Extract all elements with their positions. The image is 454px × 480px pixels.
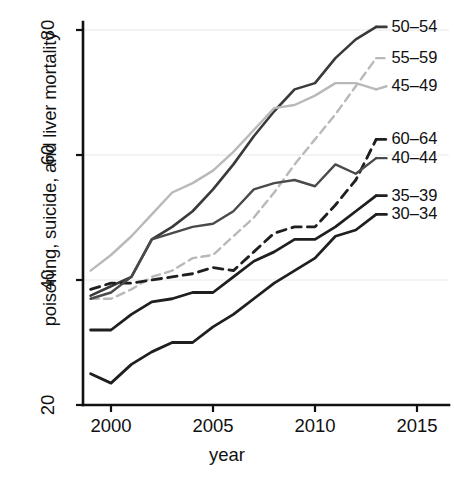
x-tick-label-2000: 2000	[76, 415, 146, 437]
series-line-50-54	[91, 27, 377, 296]
y-tick-label-80: 80	[37, 10, 59, 50]
x-tick-label-2015: 2015	[382, 415, 452, 437]
y-tick-label-40: 40	[37, 260, 59, 300]
legend-label-50-54: 50–54	[391, 17, 437, 36]
x-axis-label: year	[0, 444, 454, 466]
y-tick-label-60: 60	[37, 135, 59, 175]
legend-label-60-64: 60–64	[391, 129, 437, 148]
legend-leader-45-49	[376, 86, 386, 89]
chart-container: poisoning, suicide, and liver mortality …	[0, 0, 454, 480]
series-line-60-64	[91, 139, 377, 289]
y-axis-label: poisoning, suicide, and liver mortality	[39, 0, 61, 369]
series-line-30-34	[91, 214, 377, 383]
legend-label-45-49: 45–49	[391, 76, 437, 95]
legend-label-55-59: 55–59	[391, 48, 437, 67]
series-lines	[91, 27, 377, 383]
series-line-35-39	[91, 196, 377, 330]
x-tick-label-2005: 2005	[178, 415, 248, 437]
x-tick-label-2010: 2010	[280, 415, 350, 437]
legend-leader-lines	[376, 27, 386, 215]
legend-label-35-39: 35–39	[391, 186, 437, 205]
line-chart-plot	[0, 0, 454, 480]
legend-label-40-44: 40–44	[391, 148, 437, 167]
legend-label-30-34: 30–34	[391, 204, 437, 223]
series-line-55-59	[91, 58, 377, 299]
series-line-45-49	[91, 83, 377, 271]
y-tick-label-20: 20	[37, 385, 59, 425]
